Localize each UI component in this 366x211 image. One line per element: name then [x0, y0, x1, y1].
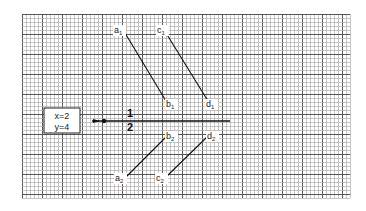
grid [22, 14, 351, 199]
info-box: x=2 y=4 [44, 108, 80, 133]
point-marker [102, 119, 106, 123]
info-box-x: x=2 [55, 111, 70, 121]
fraction-numerator: 1 [127, 107, 133, 119]
graph-paper-diagram: x=2 y=4 1 2 a1 b1 c1 d1 a2 b2 c2 [0, 0, 366, 211]
segment-a2-b2: a2 b2 [114, 131, 178, 184]
info-box-y: y=4 [55, 122, 70, 132]
fraction-denominator: 2 [127, 121, 133, 133]
segment-c1-d1: c1 d1 [156, 25, 218, 110]
